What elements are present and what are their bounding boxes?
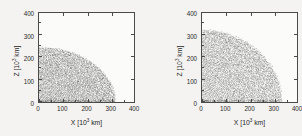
x-tick-400 (297, 99, 298, 102)
x-axis-title-text: X [10 (234, 119, 250, 126)
y-tick-right-300 (294, 34, 297, 35)
y-tick-minor (39, 67, 41, 68)
x-tick-minor (124, 100, 125, 102)
x-axis-title-right: X [103 km] (201, 118, 298, 126)
y-tick-minor (39, 45, 41, 46)
x-tick-200 (88, 99, 89, 102)
y-axis-title-unit: km] (13, 46, 20, 59)
y-tick-0 (202, 101, 205, 102)
x-tick-top-200 (88, 13, 89, 16)
y-tick-minor (39, 90, 41, 91)
y-axis-title-left: Z [103 km] (12, 31, 20, 91)
x-axis-label-200: 200 (81, 105, 91, 112)
plot-panel-right: 0 100 200 300 400 0 100 200 300 400 X [1… (151, 0, 302, 136)
x-tick-top-200 (251, 13, 252, 16)
x-axis-label-400: 400 (292, 105, 302, 112)
y-axis-label-400: 400 (175, 10, 197, 17)
y-tick-right-300 (131, 34, 134, 35)
x-axis-label-100: 100 (57, 105, 67, 112)
x-tick-200 (251, 99, 252, 102)
y-tick-200 (202, 56, 205, 57)
y-axis-label-0: 0 (175, 100, 197, 107)
x-tick-minor (51, 100, 52, 102)
x-axis-label-0: 0 (36, 105, 39, 112)
particle-scatter-right (202, 13, 297, 102)
y-axis-label-400: 400 (12, 10, 34, 17)
y-tick-100 (39, 79, 42, 80)
x-tick-400 (134, 99, 135, 102)
y-tick-minor (39, 22, 41, 23)
x-axis-label-200: 200 (244, 105, 254, 112)
x-tick-minor (238, 100, 239, 102)
x-axis-title-unit: km] (252, 119, 265, 126)
x-tick-300 (275, 99, 276, 102)
x-axis-title-text: X [10 (71, 119, 87, 126)
y-tick-400 (39, 12, 42, 13)
y-tick-400 (202, 12, 205, 13)
x-tick-top-100 (63, 13, 64, 16)
x-axis-label-300: 300 (106, 105, 116, 112)
y-tick-minor (202, 90, 204, 91)
x-tick-minor (214, 100, 215, 102)
x-tick-minor (100, 100, 101, 102)
y-tick-300 (202, 34, 205, 35)
y-tick-200 (39, 56, 42, 57)
particle-cloud-right (202, 13, 297, 102)
y-tick-300 (39, 34, 42, 35)
y-axis-title-exponent: 3 (175, 59, 180, 62)
y-tick-0 (39, 101, 42, 102)
x-tick-top-100 (226, 13, 227, 16)
y-axis-title-right: Z [103 km] (175, 31, 183, 91)
y-axis-title-exponent: 3 (12, 59, 17, 62)
plot-frame-right (201, 12, 298, 103)
x-tick-100 (63, 99, 64, 102)
x-tick-300 (112, 99, 113, 102)
y-tick-minor (202, 45, 204, 46)
y-tick-minor (202, 22, 204, 23)
y-tick-100 (202, 79, 205, 80)
x-tick-minor (263, 100, 264, 102)
x-axis-label-400: 400 (129, 105, 139, 112)
y-axis-title-unit: km] (176, 46, 183, 59)
y-tick-minor (202, 67, 204, 68)
y-tick-right-100 (131, 79, 134, 80)
x-axis-label-100: 100 (220, 105, 230, 112)
y-axis-label-0: 0 (12, 100, 34, 107)
x-tick-100 (226, 99, 227, 102)
x-tick-top-300 (275, 13, 276, 16)
y-tick-right-100 (294, 79, 297, 80)
plot-frame-left (38, 12, 135, 103)
particle-cloud-left (39, 13, 134, 102)
x-axis-label-300: 300 (269, 105, 279, 112)
x-tick-minor (287, 100, 288, 102)
y-tick-right-200 (131, 56, 134, 57)
plot-panel-left: 0 100 200 300 400 0 100 200 300 400 X [1… (0, 0, 151, 136)
y-axis-title-text: Z [10 (176, 61, 183, 77)
figure-container: 0 100 200 300 400 0 100 200 300 400 X [1… (0, 0, 302, 136)
x-tick-top-300 (112, 13, 113, 16)
x-tick-minor (75, 100, 76, 102)
y-tick-right-200 (294, 56, 297, 57)
x-axis-title-unit: km] (89, 119, 102, 126)
y-axis-title-text: Z [10 (13, 61, 20, 77)
x-axis-label-0: 0 (199, 105, 202, 112)
x-axis-title-left: X [103 km] (38, 118, 135, 126)
particle-scatter-left (39, 13, 134, 102)
